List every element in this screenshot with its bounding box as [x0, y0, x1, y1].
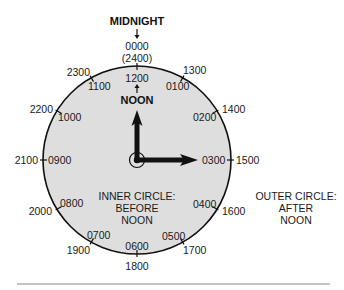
- noon-label: NOON: [121, 94, 154, 106]
- inner-hour-0300: 0300: [202, 154, 226, 166]
- svg-text:AFTER: AFTER: [279, 202, 314, 214]
- outer-hour-1700: 1700: [183, 244, 207, 256]
- outer-hour-1900: 1900: [67, 244, 91, 256]
- outer-hour-1300: 1300: [183, 64, 207, 76]
- inner-hour-0400: 0400: [193, 198, 217, 210]
- outer-hour-0000: 0000: [125, 40, 149, 52]
- outer-hour-1400: 1400: [222, 103, 246, 115]
- outer-hour-1500: 1500: [236, 154, 260, 166]
- outer-circle-legend: OUTER CIRCLE: AFTER NOON: [255, 190, 336, 226]
- outer-hour-1600: 1600: [222, 205, 246, 217]
- inner-hour-0700: 0700: [87, 229, 111, 241]
- inner-hour-1000: 1000: [58, 111, 82, 123]
- inner-hour-0100: 0100: [166, 80, 190, 92]
- outer-hour-2300: 2300: [67, 66, 91, 78]
- inner-hour-0800: 0800: [60, 197, 84, 209]
- svg-text:NOON: NOON: [280, 214, 312, 226]
- midnight-arrow-icon: [135, 29, 140, 39]
- clock-diagram: MIDNIGHT 0000 (2400) 1200 NOON 0100 0200…: [0, 0, 344, 290]
- inner-hour-1200: 1200: [125, 72, 149, 84]
- midnight-label: MIDNIGHT: [110, 15, 165, 27]
- inner-hour-0900: 0900: [48, 154, 72, 166]
- svg-text:BEFORE: BEFORE: [115, 202, 158, 214]
- inner-hour-1100: 1100: [88, 80, 111, 92]
- outer-hour-2200: 2200: [30, 103, 54, 115]
- inner-hour-0600: 0600: [125, 240, 149, 252]
- center-hub-dot: [134, 157, 140, 163]
- inner-hour-0200: 0200: [193, 111, 217, 123]
- outer-hour-2000: 2000: [29, 205, 53, 217]
- outer-hour-2400: (2400): [122, 52, 152, 64]
- outer-hour-1800: 1800: [125, 260, 149, 272]
- svg-text:OUTER CIRCLE:: OUTER CIRCLE:: [255, 190, 336, 202]
- svg-text:INNER CIRCLE:: INNER CIRCLE:: [98, 190, 175, 202]
- outer-hour-2100: 2100: [15, 154, 39, 166]
- svg-text:NOON: NOON: [121, 214, 153, 226]
- inner-hour-0500: 0500: [162, 230, 186, 242]
